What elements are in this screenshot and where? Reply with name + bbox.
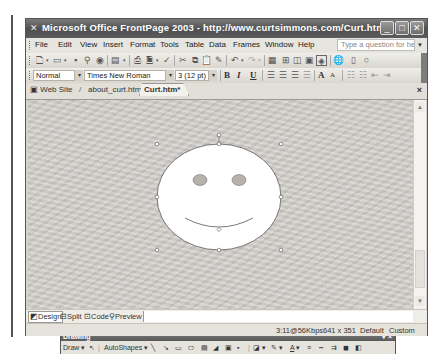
justify-icon[interactable]: ☰ [301,70,312,81]
maximize-button[interactable]: □ [395,21,409,35]
arrow-style-icon[interactable]: ⇉ [331,342,337,353]
decrease-indent-icon[interactable]: ⇤ [369,70,380,81]
line-style-icon[interactable]: ≡ [307,342,311,353]
spelling-icon[interactable]: ✓ [161,55,172,66]
menu-window[interactable]: Window [265,40,293,49]
toolbar-options-icon[interactable] [421,68,427,83]
insert-layer-icon[interactable]: ◫ [292,55,303,66]
wordart-icon[interactable]: ◢ [213,342,218,353]
menu-grip[interactable] [29,41,31,50]
text-box-icon[interactable]: ▤ [201,342,208,353]
menu-edit[interactable]: Edit [58,40,72,49]
menu-insert[interactable]: Insert [103,40,123,49]
toolbar-options-icon[interactable] [421,53,427,68]
align-left-icon[interactable]: ☰ [265,70,276,81]
scroll-up-icon[interactable]: ▲ [415,102,425,112]
help-question-input[interactable]: Type a question for help [337,39,415,51]
autoshapes-menu-button[interactable]: AutoShapes ▾ [104,342,148,353]
select-objects-icon[interactable]: ↖ [89,342,95,353]
tab-web-site[interactable]: ▣ Web Site [30,85,73,94]
dash-style-icon[interactable]: ┅ [319,342,323,353]
view-tab-design[interactable]: ◩Design [28,311,63,323]
search-icon[interactable]: ⚲ [82,55,93,66]
font-size-select[interactable]: 3 (12 pt) [175,70,209,81]
font-color-icon[interactable]: A ▾ [290,342,300,353]
align-right-icon[interactable]: ☰ [289,70,300,81]
menu-help[interactable]: Help [298,40,314,49]
arrow-icon[interactable]: ↘ [163,342,169,353]
design-canvas[interactable]: Drawing ▾ × Draw ▾ ↖ | AutoShapes ▾ ╲ ↘ … [28,100,413,309]
line-icon[interactable]: ╲ [151,342,155,353]
publish-icon[interactable]: ◉ [94,55,105,66]
view-tab-code[interactable]: ⊡Code [84,312,109,322]
oval-icon[interactable]: ⬭ [188,342,194,353]
pane-dropdown-icon[interactable]: ▾ [121,55,127,66]
custom-mode[interactable]: Custom [389,326,415,335]
toolbar-grip[interactable] [29,71,31,80]
preview-dropdown-icon[interactable]: ▾ [154,55,160,66]
new-dropdown-icon[interactable]: ▾ [44,55,50,66]
print-icon[interactable]: ⎙ [132,55,143,66]
menu-frames[interactable]: Frames [233,40,260,49]
line-color-icon[interactable]: ✎ ▾ [271,342,283,353]
menu-table[interactable]: Table [185,40,204,49]
tab-curt[interactable]: Curt.htm* [139,83,189,96]
bullets-icon[interactable]: ☷ [357,70,368,81]
picture-icon[interactable]: ▪ [237,342,239,353]
size-dropdown-icon[interactable]: ▾ [209,70,217,81]
close-button[interactable]: ✕ [410,21,424,35]
close-document-icon[interactable]: × [417,85,422,95]
tab-about-curt[interactable]: about_curt.htm [88,85,141,94]
default-mode[interactable]: Default [360,326,384,335]
bold-button[interactable]: B [224,70,230,81]
menu-format[interactable]: Format [130,40,155,49]
paste-icon[interactable]: 📋 [201,55,212,66]
align-center-icon[interactable]: ☰ [277,70,288,81]
open-dropdown-icon[interactable]: ▾ [62,55,68,66]
scroll-thumb[interactable] [415,250,425,288]
save-icon[interactable]: ▪ [70,55,81,66]
format-painter-icon[interactable]: ✎ [213,55,224,66]
download-time[interactable]: 3:11@56Kbps [276,326,323,335]
web-component-icon[interactable]: ▦ [267,55,278,66]
underline-button[interactable]: U [250,70,257,81]
toolbar-grip[interactable] [29,56,31,65]
insert-picture-icon[interactable]: ▣ [304,55,315,66]
view-tab-preview[interactable]: ⚲Preview [109,312,142,322]
undo-dropdown-icon[interactable]: ▾ [239,55,245,66]
draw-menu-button[interactable]: Draw ▾ [63,342,85,353]
font-select[interactable]: Times New Roman [84,70,166,81]
shadow-style-icon[interactable]: ◼ [343,342,349,353]
rectangle-icon[interactable]: ▭ [175,342,182,353]
menu-tools[interactable]: Tools [160,40,179,49]
horizontal-scrollbar[interactable] [143,311,413,322]
view-tab-split[interactable]: ⊟Split [60,312,82,322]
menu-view[interactable]: View [80,40,97,49]
page-size[interactable]: 641 x 351 [323,326,356,335]
3d-style-icon[interactable]: ◧ [355,342,362,353]
help-dropdown-icon[interactable]: ▼ [417,42,423,48]
fill-color-icon[interactable]: ◪ ▾ [253,342,266,353]
shrink-font-button[interactable]: A [330,70,335,81]
font-dropdown-icon[interactable]: ▾ [166,70,174,81]
style-select[interactable]: Normal [33,70,75,81]
minimize-button[interactable]: _ [380,21,394,35]
grow-font-button[interactable]: A [318,70,325,81]
folder-list-icon[interactable]: ▯ [348,55,359,66]
redo-dropdown-icon[interactable]: ▾ [256,55,262,66]
italic-button[interactable]: I [237,70,241,81]
drawing-icon[interactable]: ◈ [316,55,327,66]
cut-icon[interactable]: ✂ [177,55,188,66]
show-all-icon[interactable]: ○ [361,55,372,66]
menu-file[interactable]: File [35,40,48,49]
smiley-face-drawing[interactable] [28,100,413,309]
increase-indent-icon[interactable]: ⇥ [381,70,392,81]
copy-icon[interactable]: ⧉ [189,55,200,66]
vertical-scrollbar[interactable]: ▲ ▼ [413,100,426,309]
insert-table-icon[interactable]: ⊞ [280,55,291,66]
numbering-icon[interactable]: ☷ [345,70,356,81]
hyperlink-icon[interactable]: 🌐 [333,55,344,66]
menu-data[interactable]: Data [209,40,226,49]
scroll-down-icon[interactable]: ▼ [415,296,425,306]
clip-art-icon[interactable]: ▣ [225,342,232,353]
